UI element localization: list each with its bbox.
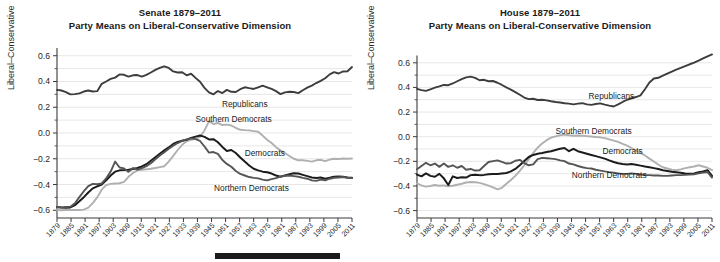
x-tick-label: 1939	[545, 221, 563, 239]
x-tick-label: 1951	[213, 221, 231, 239]
redaction-bar	[215, 253, 340, 259]
y-gridlines	[417, 63, 712, 211]
x-tick-label: 1963	[241, 221, 259, 239]
series-label-democrats: Democrats	[245, 148, 285, 158]
panel-senate: Senate 1879–2011 Party Means on Liberal-…	[0, 0, 360, 262]
y-axis: 0.60.40.20.0−0.2−0.4−0.6	[393, 55, 417, 218]
x-tick-label: 1915	[128, 221, 146, 239]
y-tick-label: 0.2	[38, 102, 50, 112]
y-tick-label: 0.4	[398, 82, 410, 92]
series-label-southern-democrats: Southern Democrats	[196, 114, 272, 124]
x-tick-label: 1891	[72, 221, 90, 239]
y-tick-label: −0.4	[33, 180, 50, 190]
y-tick-label: −0.4	[393, 181, 410, 191]
y-tick-label: 0.0	[38, 128, 50, 138]
x-tick-label: 1993	[297, 221, 315, 239]
x-axis: 1879188518911897190319091915192119271933…	[404, 218, 717, 239]
y-tick-label: −0.2	[393, 156, 410, 166]
x-tick-label: 2005	[685, 221, 703, 239]
x-tick-label: 1963	[601, 221, 619, 239]
y-tick-label: 0.2	[398, 107, 410, 117]
x-tick-label: 1987	[643, 221, 661, 239]
series-label-democrats: Democrats	[603, 146, 643, 156]
x-axis: 1879188518911897190319091915192119271933…	[44, 218, 357, 239]
x-tick-label: 1879	[44, 221, 62, 239]
y-tick-label: 0.6	[398, 58, 410, 68]
x-tick-label: 1927	[156, 221, 174, 239]
x-tick-label: 1915	[488, 221, 506, 239]
panel-house: House 1879–2011 Party Means on Liberal-C…	[360, 0, 720, 262]
x-tick-label: 1897	[446, 221, 464, 239]
x-tick-label: 1945	[199, 221, 217, 239]
series-label-republicans: Republicans	[222, 99, 268, 109]
x-tick-label: 2011	[699, 221, 716, 238]
x-tick-label: 1933	[530, 221, 548, 239]
x-tick-label: 2011	[339, 221, 356, 238]
x-tick-label: 1975	[255, 221, 273, 239]
series-line-southern-democrats	[57, 121, 352, 210]
x-tick-label: 1957	[587, 221, 605, 239]
x-tick-label: 1903	[460, 221, 478, 239]
x-tick-label: 1903	[100, 221, 118, 239]
y-axis: 0.60.40.20.0−0.2−0.4−0.6	[33, 48, 57, 218]
y-tick-label: 0.6	[38, 51, 50, 61]
x-tick-label: 1921	[142, 221, 160, 239]
series-label-southern-democrats: Southern Democrats	[556, 126, 632, 136]
x-tick-label: 1909	[474, 221, 492, 239]
series-label-northern-democrats: Northern Democrats	[214, 183, 289, 193]
panel-senate-plot: 0.60.40.20.0−0.2−0.4−0.61879188518911897…	[0, 0, 360, 262]
x-tick-label: 1885	[58, 221, 76, 239]
x-tick-label: 1999	[311, 221, 329, 239]
x-tick-label: 2005	[325, 221, 343, 239]
x-tick-label: 1921	[502, 221, 520, 239]
x-tick-label: 1993	[657, 221, 675, 239]
y-tick-label: −0.6	[393, 206, 410, 216]
x-tick-label: 1957	[227, 221, 245, 239]
x-tick-label: 1975	[615, 221, 633, 239]
x-tick-label: 1885	[418, 221, 436, 239]
x-tick-label: 1927	[516, 221, 534, 239]
x-tick-label: 1909	[114, 221, 132, 239]
y-gridlines	[57, 56, 352, 211]
x-tick-label: 1999	[671, 221, 689, 239]
x-tick-label: 1939	[185, 221, 203, 239]
series-label-northern-democrats: Northern Democrats	[572, 170, 647, 180]
x-tick-label: 1987	[283, 221, 301, 239]
y-tick-label: −0.6	[33, 205, 50, 215]
x-tick-label: 1879	[404, 221, 422, 239]
y-tick-label: −0.2	[33, 154, 50, 164]
series-label-republicans: Republicans	[589, 91, 635, 101]
x-tick-label: 1891	[432, 221, 450, 239]
panel-house-plot: 0.60.40.20.0−0.2−0.4−0.61879188518911897…	[360, 0, 720, 262]
series-line-republicans	[57, 66, 352, 94]
x-tick-label: 1981	[269, 221, 287, 239]
figure-panels: Senate 1879–2011 Party Means on Liberal-…	[0, 0, 720, 262]
x-tick-label: 1981	[629, 221, 647, 239]
x-tick-label: 1951	[573, 221, 591, 239]
x-tick-label: 1945	[559, 221, 577, 239]
x-tick-label: 1897	[86, 221, 104, 239]
x-tick-label: 1933	[170, 221, 188, 239]
series-line-republicans	[417, 54, 712, 106]
y-tick-label: 0.4	[38, 76, 50, 86]
y-tick-label: 0.0	[398, 132, 410, 142]
